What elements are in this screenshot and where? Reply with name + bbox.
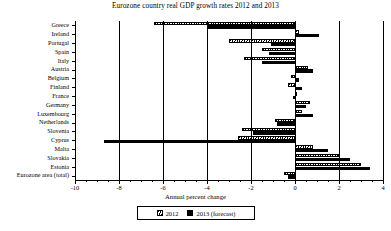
category-label: Malta [55,146,69,152]
x-tick-minor [86,180,87,182]
x-tick-minor [108,180,109,182]
x-tick-label: -10 [63,184,87,191]
x-tick-minor [284,180,285,182]
plot-area [75,21,383,180]
gridline [119,21,120,180]
x-tick-label: -2 [239,184,263,191]
bar-2013-forecast--estonia [295,167,370,170]
category-label: France [52,93,69,99]
x-tick-minor [185,180,186,182]
bar-2012-finland [288,83,295,86]
bar-2013-forecast--spain [269,52,295,55]
legend-item-2013: 2013 (forecast) [187,210,235,217]
x-tick-minor [306,180,307,182]
category-label: Portugal [48,40,69,46]
x-tick-minor [317,180,318,182]
category-label: Belgium [48,75,69,81]
category-label: Luxembourg [37,111,69,117]
x-tick-label: -4 [195,184,219,191]
legend-label-2013: 2013 (forecast) [196,210,235,217]
bar-2013-forecast--germany [295,105,306,108]
category-label: Slovenia [47,128,69,134]
category-label: Ireland [51,31,69,37]
category-label: Cyprus [51,137,69,143]
x-tick-minor [141,180,142,182]
gridline [207,21,208,180]
x-tick-minor [174,180,175,182]
category-label: Slovakia [47,155,69,161]
legend-label-2012: 2012 [166,210,179,217]
x-tick-minor [273,180,274,182]
category-label: Eurozone area (total) [17,172,69,178]
x-tick-minor [152,180,153,182]
x-tick-label: -6 [151,184,175,191]
x-tick-minor [328,180,329,182]
category-label: Italy [58,58,69,64]
bar-2013-forecast--italy [262,61,295,64]
category-label: Finland [50,84,69,90]
x-tick-minor [350,180,351,182]
x-axis-title: Annual percent change [0,193,391,200]
category-label: Netherlands [39,119,69,125]
x-tick-minor [372,180,373,182]
x-tick-minor [97,180,98,182]
gdp-growth-chart: Eurozone country real GDP growth rates 2… [0,0,391,231]
gridline [163,21,164,180]
category-label: Austria [51,66,69,72]
bar-2013-forecast--slovakia [295,158,350,161]
legend-swatch-2012 [157,210,163,216]
x-tick-minor [229,180,230,182]
x-tick-minor [262,180,263,182]
bar-2013-forecast--ireland [295,34,319,37]
x-tick-minor [218,180,219,182]
legend-swatch-2013 [187,210,193,216]
zero-line [295,21,296,180]
category-label: Greece [51,22,69,28]
x-tick-minor [196,180,197,182]
bar-2013-forecast--austria [295,69,313,72]
chart-title: Eurozone country real GDP growth rates 2… [0,2,391,10]
x-tick-minor [361,180,362,182]
gridline [339,21,340,180]
bar-2013-forecast--malta [295,149,328,152]
legend-item-2012: 2012 [157,210,179,217]
x-tick-label: 4 [371,184,391,191]
bar-2013-forecast--portugal [271,43,295,46]
x-tick-label: -8 [107,184,131,191]
x-tick-minor [240,180,241,182]
chart-legend: 2012 2013 (forecast) [137,206,255,220]
category-axis: GreeceIrelandPortugalSpainItalyAustriaBe… [0,21,72,180]
bar-2013-forecast--eurozone-area-total- [288,175,295,178]
bar-2013-forecast--luxembourg [295,114,313,117]
category-label: Estonia [50,164,69,170]
category-label: Germany [46,102,69,108]
gridline [383,21,384,180]
category-label: Spain [55,49,69,55]
bar-2013-forecast--slovenia [253,131,295,134]
x-tick-minor [130,180,131,182]
x-tick-label: 0 [283,184,307,191]
bar-2013-forecast--cyprus [104,140,295,143]
gridline [251,21,252,180]
x-tick-label: 2 [327,184,351,191]
bar-2013-forecast--netherlands [277,122,295,125]
